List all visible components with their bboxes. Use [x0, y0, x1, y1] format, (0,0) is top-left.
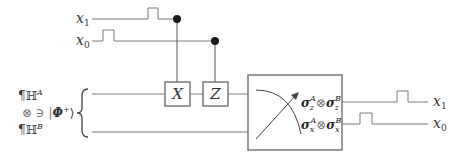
circuit-diagram: X Z σzA⊗σzB σxA⊗σxB x1 x0 x1 x0 ¶ℍA ⊗ ∋ … — [0, 0, 461, 158]
hilbert-space-b-label: ¶ℍB — [18, 122, 43, 137]
z-gate-label: Z — [209, 85, 221, 103]
x1-output-label: x1 — [433, 93, 447, 111]
bell-state-label: ⊗ ∋ |Φ+⟩ — [22, 105, 74, 120]
measurement-row-2: σxA⊗σxB — [301, 116, 342, 134]
x1-output-wire — [342, 91, 428, 102]
measurement-box — [248, 75, 342, 150]
x-gate-label: X — [171, 85, 184, 103]
brace — [77, 89, 88, 137]
measurement-row-1: σzA⊗σzB — [301, 94, 341, 112]
x1-input-label: x1 — [76, 10, 90, 28]
hilbert-space-a-label: ¶ℍA — [18, 88, 43, 103]
x0-output-wire — [342, 113, 428, 124]
z-control-dot — [211, 37, 219, 45]
x0-input-label: x0 — [76, 32, 90, 50]
x0-output-label: x0 — [433, 115, 447, 133]
x0-input-wire — [92, 30, 215, 41]
x1-input-wire — [92, 8, 177, 19]
x-control-dot — [173, 15, 181, 23]
